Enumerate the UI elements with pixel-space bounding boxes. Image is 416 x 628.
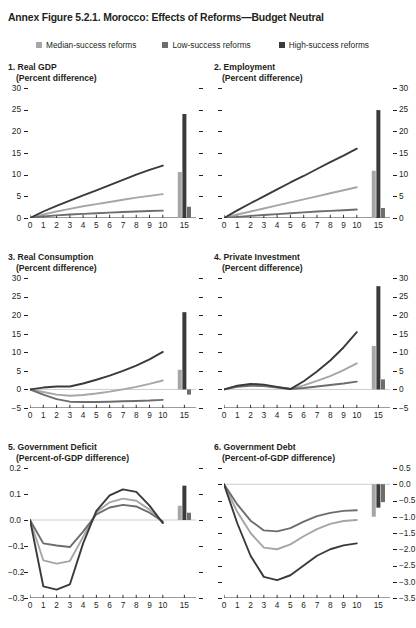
x-tick-label: 10 <box>348 221 366 229</box>
y-tick-mark <box>218 582 222 583</box>
y-tick-mark <box>199 88 203 89</box>
y-tick-mark <box>393 218 397 219</box>
y-tick-label: 0.0 <box>399 480 411 488</box>
panel-subtitle: (Percent difference) <box>222 263 303 274</box>
bar-median <box>372 171 376 218</box>
y-tick-label: 20 <box>8 311 21 319</box>
bar-low <box>381 484 385 502</box>
y-tick-mark <box>199 389 203 390</box>
bar-high <box>182 486 186 520</box>
y-tick-label: 30 <box>399 274 408 282</box>
y-tick-label: 10 <box>8 348 21 356</box>
y-tick-label: 0 <box>399 214 404 222</box>
y-tick-label: 0.0 <box>8 516 21 524</box>
y-tick-label: −5 <box>8 404 21 412</box>
y-tick-label: 25 <box>8 292 21 300</box>
legend-item-median: Median-success reforms <box>36 40 136 50</box>
chart-svg <box>224 468 390 598</box>
x-tick-label: 15 <box>175 411 193 419</box>
y-tick-mark <box>218 153 222 154</box>
x-tick-label: 10 <box>154 411 172 419</box>
legend-item-low: Low-success reforms <box>162 40 250 50</box>
y-tick-label: −1.0 <box>399 513 415 521</box>
y-tick-label: 15 <box>8 330 21 338</box>
y-tick-mark <box>199 196 203 197</box>
legend-swatch-low <box>162 42 168 48</box>
panel-real-gdp: 1. Real GDP (Percent difference) 0510152… <box>8 62 204 248</box>
y-tick-mark <box>393 533 397 534</box>
y-tick-mark <box>393 389 397 390</box>
y-tick-mark <box>218 315 222 316</box>
y-tick-label: 5 <box>399 192 404 200</box>
x-tick-label: 10 <box>348 411 366 419</box>
y-tick-mark <box>218 549 222 550</box>
y-tick-mark <box>218 371 222 372</box>
y-tick-mark <box>218 110 222 111</box>
y-tick-label: −1.5 <box>399 529 415 537</box>
y-tick-mark <box>199 218 203 219</box>
y-tick-mark <box>199 352 203 353</box>
y-tick-label: −0.2 <box>8 568 21 576</box>
legend: Median-success reforms Low-success refor… <box>8 38 408 52</box>
panel-subtitle: (Percent difference) <box>16 263 97 274</box>
series-line-median <box>30 194 163 218</box>
bar-median <box>178 370 182 390</box>
y-tick-mark <box>24 352 28 353</box>
bar-low <box>187 207 191 218</box>
y-tick-mark <box>218 131 222 132</box>
series-line-median <box>30 499 163 564</box>
y-tick-label: 0.1 <box>8 490 21 498</box>
y-tick-mark <box>393 371 397 372</box>
y-tick-mark <box>24 131 28 132</box>
y-tick-mark <box>393 468 397 469</box>
y-tick-mark <box>393 484 397 485</box>
y-tick-label: 25 <box>399 105 408 113</box>
y-tick-mark <box>218 297 222 298</box>
y-tick-mark <box>393 334 397 335</box>
y-tick-mark <box>218 501 222 502</box>
x-tick-label: 15 <box>369 411 387 419</box>
y-tick-mark <box>199 408 203 409</box>
y-tick-mark <box>393 153 397 154</box>
bar-median <box>372 346 376 389</box>
y-tick-mark <box>199 175 203 176</box>
y-tick-label: −3.0 <box>399 578 415 586</box>
y-tick-label: 0.5 <box>399 464 411 472</box>
y-tick-mark <box>24 218 28 219</box>
y-tick-label: 10 <box>399 170 408 178</box>
y-tick-mark <box>218 389 222 390</box>
bar-high <box>376 110 380 218</box>
y-tick-mark <box>393 175 397 176</box>
bar-high <box>376 484 380 507</box>
chart-svg <box>224 278 390 408</box>
plot-area <box>224 278 390 408</box>
series-line-high <box>30 352 163 390</box>
plot-area <box>224 468 390 598</box>
y-tick-mark <box>24 572 28 573</box>
y-tick-mark <box>24 408 28 409</box>
y-tick-mark <box>24 88 28 89</box>
y-tick-label: 25 <box>399 292 408 300</box>
y-tick-mark <box>218 566 222 567</box>
y-tick-label: −0.3 <box>8 594 21 602</box>
y-tick-mark <box>218 175 222 176</box>
bar-low <box>187 513 191 520</box>
y-tick-label: 15 <box>399 330 408 338</box>
y-tick-label: −5 <box>399 404 408 412</box>
x-tick-label: 15 <box>369 601 387 609</box>
y-tick-label: 20 <box>399 311 408 319</box>
y-tick-mark <box>24 389 28 390</box>
y-tick-label: 5 <box>399 367 404 375</box>
y-tick-mark <box>218 334 222 335</box>
y-tick-mark <box>199 131 203 132</box>
y-tick-mark <box>218 196 222 197</box>
y-tick-mark <box>218 533 222 534</box>
y-tick-label: −2.0 <box>399 545 415 553</box>
panel-title: 2. Employment <box>214 62 275 73</box>
panel-real-consumption: 3. Real Consumption (Percent difference)… <box>8 252 204 438</box>
y-tick-mark <box>199 572 203 573</box>
y-tick-mark <box>393 408 397 409</box>
y-tick-label: 30 <box>399 84 408 92</box>
panel-title: 3. Real Consumption <box>8 252 93 263</box>
y-tick-mark <box>218 278 222 279</box>
